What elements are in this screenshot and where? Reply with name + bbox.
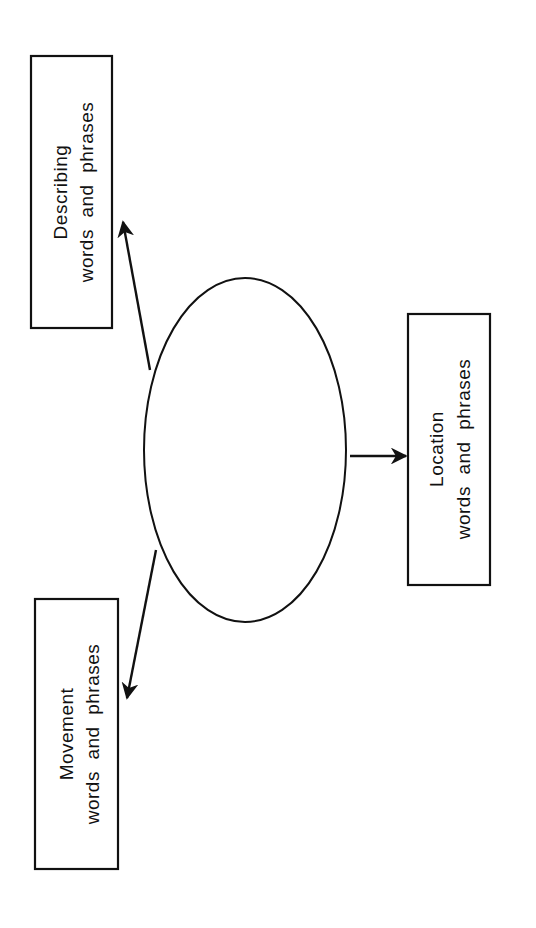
- location-label-line2: words and phrases: [453, 359, 474, 541]
- arrow-to-movement: [127, 550, 156, 698]
- describing-label-line1: Describing: [50, 145, 71, 240]
- arrow-to-describing: [123, 222, 150, 370]
- location-label-line1: Location: [426, 411, 447, 487]
- location-box: Location words and phrases: [408, 314, 490, 585]
- movement-box: Movement words and phrases: [35, 599, 118, 869]
- describing-label-line2: words and phrases: [76, 102, 97, 284]
- center-ellipse: [144, 278, 346, 622]
- describing-box: Describing words and phrases: [31, 56, 112, 328]
- movement-label-line1: Movement: [56, 687, 77, 780]
- diagram-canvas: Describing words and phrases Location wo…: [0, 0, 536, 928]
- movement-label-line2: words and phrases: [82, 644, 103, 826]
